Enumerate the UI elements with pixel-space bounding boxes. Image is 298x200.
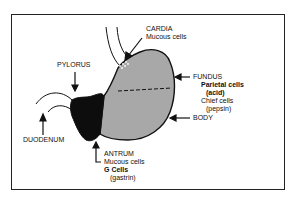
parietal-acid-label: (acid) [206,89,225,97]
parietal-cells-label: Parietal cells [201,81,244,89]
stomach-body-region [100,50,175,140]
pylorus-label: PYLORUS [57,61,90,69]
body-label: BODY [193,114,213,122]
g-cells-label: G Cells [104,166,128,174]
antrum-label: ANTRUM [104,150,134,158]
duodenum-lower-wall [48,106,72,112]
chief-pepsin-label: (pepsin) [206,105,231,113]
duodenum-upper-wall [36,93,72,104]
chief-cells-label: Chief cells [201,97,233,105]
duodenum-label: DUODENUM [23,136,64,144]
cardia-cells-label: Mucous cells [146,33,186,41]
antrum-region [71,94,105,141]
fundus-label: FUNDUS [193,73,222,81]
cardia-label: CARDIA [146,25,172,33]
gastrin-label: (gastrin) [110,174,136,182]
antrum-mucous-label: Mucous cells [104,158,144,166]
